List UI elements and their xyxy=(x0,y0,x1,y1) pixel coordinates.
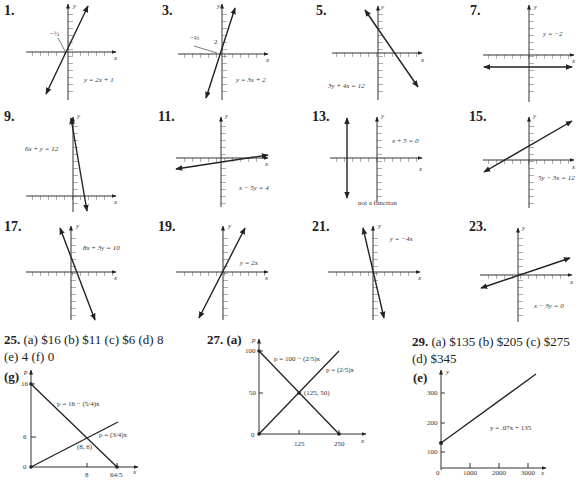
problem-number-29: 29. xyxy=(412,334,428,349)
svg-text:x: x xyxy=(420,56,425,64)
chart-27a: px 100 50 0 125 250 p = 100 − (2/5)x p =… xyxy=(245,336,366,448)
graph-9: xy 6x + y = 12 xyxy=(25,112,118,212)
svg-text:50: 50 xyxy=(249,389,257,397)
svg-text:p = (2/5)x: p = (2/5)x xyxy=(326,366,355,374)
svg-text:x: x xyxy=(569,278,574,286)
svg-text:x: x xyxy=(360,437,365,445)
svg-text:−½: −½ xyxy=(50,30,59,38)
svg-text:(125, 50): (125, 50) xyxy=(304,389,330,397)
svg-text:p: p xyxy=(251,336,256,344)
svg-text:p = 16 − (5/4)x: p = 16 − (5/4)x xyxy=(57,400,100,408)
svg-text:−⅔: −⅔ xyxy=(190,34,199,42)
svg-text:100: 100 xyxy=(245,347,256,355)
svg-text:64/5: 64/5 xyxy=(110,471,123,479)
graphs-canvas: xy −½ y = 2x + 1 xy −⅔2 y = 3x + 2 xy 3y… xyxy=(0,0,579,492)
answer-29-line1: (a) $135 (b) $205 (c) $275 xyxy=(432,334,570,349)
graph-23: xy x − 3y = 0 xyxy=(480,224,574,322)
svg-text:y: y xyxy=(377,222,382,230)
answer-27: 27. (a) xyxy=(207,331,242,348)
equation-label: x − 3y = 0 xyxy=(533,302,564,310)
graph-1: xy −½ y = 2x + 1 xyxy=(26,2,118,100)
svg-text:y: y xyxy=(216,2,221,10)
svg-text:x: x xyxy=(540,469,545,477)
answer-29: 29. (a) $135 (b) $205 (c) $275 (d) $345 xyxy=(412,333,570,367)
svg-text:6: 6 xyxy=(23,433,27,441)
svg-text:y: y xyxy=(533,3,538,11)
graph-17: xy 8x + 3y = 10 xyxy=(26,222,120,320)
svg-text:1000: 1000 xyxy=(463,469,478,477)
svg-text:300: 300 xyxy=(427,389,438,397)
problem-number-25: 25. xyxy=(4,332,20,347)
svg-text:100: 100 xyxy=(427,448,438,456)
equation-label: 6x + y = 12 xyxy=(25,145,59,153)
answer-25g-label: (g) xyxy=(4,368,19,385)
chart-29e: yx 300 200 100 0 1000 2000 3000 y = .07x… xyxy=(427,368,546,477)
svg-text:x: x xyxy=(113,54,118,62)
equation-label: y = 3x + 2 xyxy=(235,76,266,84)
svg-text:x: x xyxy=(265,56,270,64)
svg-text:x: x xyxy=(264,160,269,168)
svg-text:x: x xyxy=(571,163,576,171)
svg-text:0: 0 xyxy=(23,463,27,471)
svg-text:16: 16 xyxy=(21,380,29,388)
equation-label: y = 2x xyxy=(239,259,259,267)
svg-text:y = .07x + 135: y = .07x + 135 xyxy=(490,424,532,432)
problem-number-27: 27. xyxy=(207,332,223,347)
equation-label: y = −4x xyxy=(389,235,414,243)
svg-text:y: y xyxy=(75,222,80,230)
svg-text:y: y xyxy=(224,112,229,120)
svg-text:y: y xyxy=(380,112,385,120)
graph-11: xy x − 5y = 4 xyxy=(176,112,269,207)
answer-27-part: (a) xyxy=(227,332,242,347)
svg-text:y: y xyxy=(532,112,537,120)
chart-25g: px 16 6 0 8 64/5 p = 16 − (5/4)x p = (3/… xyxy=(21,368,138,479)
svg-text:p = (3/4)x: p = (3/4)x xyxy=(99,431,128,439)
graph-5: xy 3y + 4x = 12 xyxy=(327,3,425,100)
svg-text:2000: 2000 xyxy=(492,469,507,477)
svg-text:y: y xyxy=(380,3,385,11)
graph-15: xy 5y − 3x = 12 xyxy=(483,112,576,208)
graph-7: xy y = −2 xyxy=(483,3,576,102)
svg-text:x: x xyxy=(113,198,118,206)
equation-label: x − 5y = 4 xyxy=(238,184,269,192)
svg-text:3000: 3000 xyxy=(521,469,536,477)
svg-text:p = 100 − (2/5)x: p = 100 − (2/5)x xyxy=(274,355,321,363)
graph-21: xy y = −4x xyxy=(328,222,422,320)
svg-text:y: y xyxy=(72,2,77,10)
graph-3: xy −⅔2 y = 3x + 2 xyxy=(178,2,270,100)
graph-19: xy y = 2x xyxy=(176,222,269,320)
equation-label: y = 2x + 1 xyxy=(83,76,114,84)
answer-25-line2: (e) 4 (f) 0 xyxy=(4,349,54,364)
svg-text:2: 2 xyxy=(214,38,218,46)
svg-text:y: y xyxy=(445,368,450,376)
equation-label: 8x + 3y = 10 xyxy=(83,244,120,252)
svg-text:(8, 6): (8, 6) xyxy=(77,443,93,451)
svg-text:0: 0 xyxy=(436,469,440,477)
svg-text:x: x xyxy=(264,274,269,282)
svg-text:x: x xyxy=(418,165,423,173)
svg-text:x: x xyxy=(113,274,118,282)
equation-label: y = −2 xyxy=(542,30,563,38)
equation-label: 5y − 3x = 12 xyxy=(538,174,575,182)
answer-29e-label: (e) xyxy=(413,369,427,386)
not-a-function-note: not a function xyxy=(358,199,397,207)
svg-text:200: 200 xyxy=(427,419,438,427)
svg-text:y: y xyxy=(227,222,232,230)
answer-25-line1: (a) $16 (b) $11 (c) $6 (d) 8 xyxy=(24,332,164,347)
graph-13: xy x + 5 = 0 not a function xyxy=(330,112,423,207)
answer-25: 25. (a) $16 (b) $11 (c) $6 (d) 8 (e) 4 (… xyxy=(4,331,163,365)
equation-label: 3y + 4x = 12 xyxy=(327,82,365,90)
svg-text:y: y xyxy=(76,112,81,120)
svg-text:125: 125 xyxy=(294,440,305,448)
svg-text:p: p xyxy=(23,368,28,376)
svg-text:x: x xyxy=(571,57,576,65)
svg-text:0: 0 xyxy=(251,431,255,439)
answer-29-line2: (d) $345 xyxy=(412,351,456,366)
svg-text:y: y xyxy=(521,224,526,232)
svg-text:x: x xyxy=(132,468,137,476)
svg-text:x: x xyxy=(417,274,422,282)
equation-label: x + 5 = 0 xyxy=(391,137,419,145)
svg-text:8: 8 xyxy=(85,471,89,479)
svg-text:250: 250 xyxy=(334,440,345,448)
